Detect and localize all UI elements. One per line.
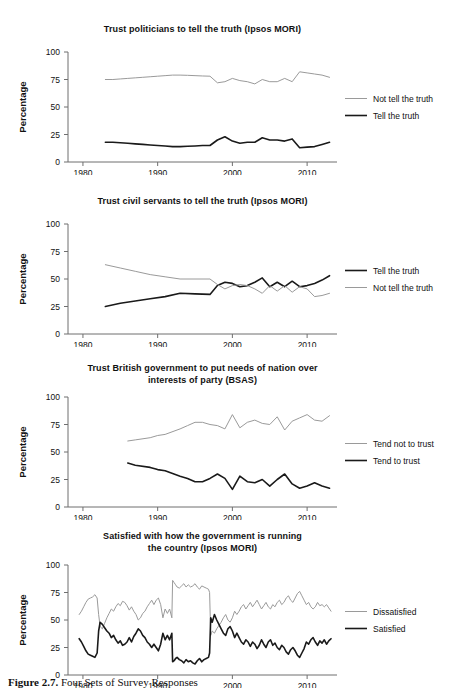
- series-line-0: [105, 276, 329, 307]
- y-tick-label: 25: [51, 643, 61, 653]
- series-line-0: [105, 72, 329, 84]
- y-tick-label: 100: [46, 47, 60, 57]
- y-tick-label: 50: [51, 274, 61, 284]
- y-tick-label: 100: [46, 219, 60, 229]
- y-tick-label: 0: [55, 329, 60, 339]
- chart-title: Trust British government to put needs of…: [87, 363, 318, 373]
- legend-label-0: Dissatisfied: [373, 607, 417, 617]
- x-tick-label: 2010: [298, 513, 317, 520]
- y-axis-label: Percentage: [17, 253, 28, 304]
- y-tick-label: 75: [51, 420, 61, 430]
- chart-title: Satisfied with how the government is run…: [103, 531, 302, 541]
- y-tick-label: 25: [51, 130, 61, 140]
- y-tick-label: 50: [51, 447, 61, 457]
- x-tick-label: 2000: [223, 513, 242, 520]
- x-tick-label: 2000: [223, 168, 242, 175]
- x-tick-label: 1980: [73, 513, 92, 520]
- series-line-1: [79, 615, 331, 665]
- x-tick-label: 2000: [223, 340, 242, 347]
- legend-label-1: Not tell the truth: [373, 283, 433, 293]
- chart-svg: Satisfied with how the government is run…: [0, 523, 473, 688]
- y-tick-label: 0: [55, 502, 60, 512]
- chart-panel-satisfied-government: Satisfied with how the government is run…: [0, 523, 473, 688]
- y-tick-label: 100: [46, 560, 60, 570]
- chart-title-line2: the country (Ipsos MORI): [148, 543, 257, 553]
- legend-label-0: Not tell the truth: [373, 94, 433, 104]
- y-tick-label: 75: [51, 75, 61, 85]
- legend-label-1: Satisfied: [373, 624, 406, 634]
- y-tick-label: 25: [51, 475, 61, 485]
- chart-svg: Trust British government to put needs of…: [0, 355, 473, 520]
- figure-caption-label: Figure 2.7.: [8, 676, 58, 688]
- y-tick-label: 0: [55, 157, 60, 167]
- chart-title: Trust civil servants to tell the truth (…: [97, 196, 307, 206]
- x-tick-label: 2010: [298, 168, 317, 175]
- legend-label-1: Tell the truth: [373, 111, 420, 121]
- y-tick-label: 75: [51, 588, 61, 598]
- y-tick-label: 50: [51, 102, 61, 112]
- chart-title: Trust politicians to tell the truth (Ips…: [104, 24, 301, 34]
- y-tick-label: 75: [51, 247, 61, 257]
- x-tick-label: 1980: [73, 168, 92, 175]
- x-tick-label: 1990: [148, 340, 167, 347]
- x-tick-label: 1990: [148, 168, 167, 175]
- figure-caption-text: Four Sets of Survey Responses: [61, 676, 198, 688]
- chart-panel-trust-british-government: Trust British government to put needs of…: [0, 355, 473, 520]
- chart-panel-trust-civil-servants: Trust civil servants to tell the truth (…: [0, 182, 473, 347]
- x-tick-label: 1990: [148, 513, 167, 520]
- y-axis-label: Percentage: [17, 594, 28, 645]
- figure-container: Trust politicians to tell the truth (Ips…: [0, 0, 473, 697]
- legend-label-0: Tend not to trust: [373, 439, 435, 449]
- chart-svg: Trust civil servants to tell the truth (…: [0, 182, 473, 347]
- x-tick-label: 2010: [298, 340, 317, 347]
- series-line-0: [79, 580, 331, 635]
- y-tick-label: 25: [51, 302, 61, 312]
- legend-label-0: Tell the truth: [373, 266, 420, 276]
- chart-svg: Trust politicians to tell the truth (Ips…: [0, 10, 473, 175]
- y-tick-label: 50: [51, 615, 61, 625]
- series-line-1: [105, 137, 329, 148]
- x-tick-label: 1980: [73, 340, 92, 347]
- y-axis-label: Percentage: [17, 81, 28, 132]
- chart-panel-trust-politicians: Trust politicians to tell the truth (Ips…: [0, 10, 473, 175]
- series-line-0: [128, 415, 330, 441]
- series-line-1: [128, 463, 330, 489]
- legend-label-1: Tend to trust: [373, 456, 420, 466]
- y-tick-label: 100: [46, 392, 60, 402]
- figure-caption: Figure 2.7. Four Sets of Survey Response…: [8, 676, 468, 688]
- chart-title-line2: interests of party (BSAS): [148, 375, 257, 385]
- series-line-1: [105, 265, 329, 297]
- y-axis-label: Percentage: [17, 426, 28, 477]
